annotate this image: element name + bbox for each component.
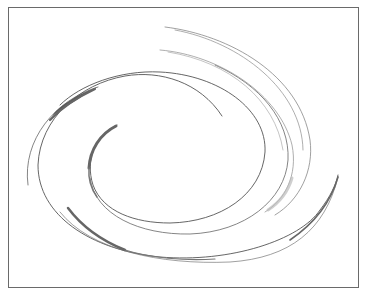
swirl-artwork (0, 0, 369, 292)
upper-right-arcs (160, 27, 311, 215)
